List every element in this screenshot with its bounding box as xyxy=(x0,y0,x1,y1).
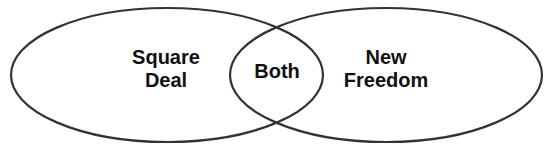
left-set-label-line2: Deal xyxy=(145,69,187,91)
intersection-label: Both xyxy=(254,60,300,82)
right-set-label-line2: Freedom xyxy=(344,69,428,91)
venn-diagram: Square Deal Both New Freedom xyxy=(0,0,551,151)
left-set-label-line1: Square xyxy=(132,46,200,68)
right-set-label-line1: New xyxy=(365,46,407,68)
